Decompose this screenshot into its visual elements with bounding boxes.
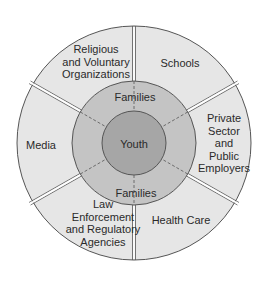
label-schools: Schools xyxy=(160,57,199,70)
label-employers: Private Sector and Public Employers xyxy=(198,112,250,175)
label-media: Media xyxy=(26,139,56,152)
label-families-bottom: Families xyxy=(116,187,157,200)
label-families-top: Families xyxy=(115,91,156,104)
label-law-enforcement: Law Enforcement and Regulatory Agencies xyxy=(66,198,141,248)
label-youth: Youth xyxy=(120,138,148,151)
label-health-care: Health Care xyxy=(152,214,211,227)
label-religious: Religious and Voluntary Organizations xyxy=(62,43,130,81)
